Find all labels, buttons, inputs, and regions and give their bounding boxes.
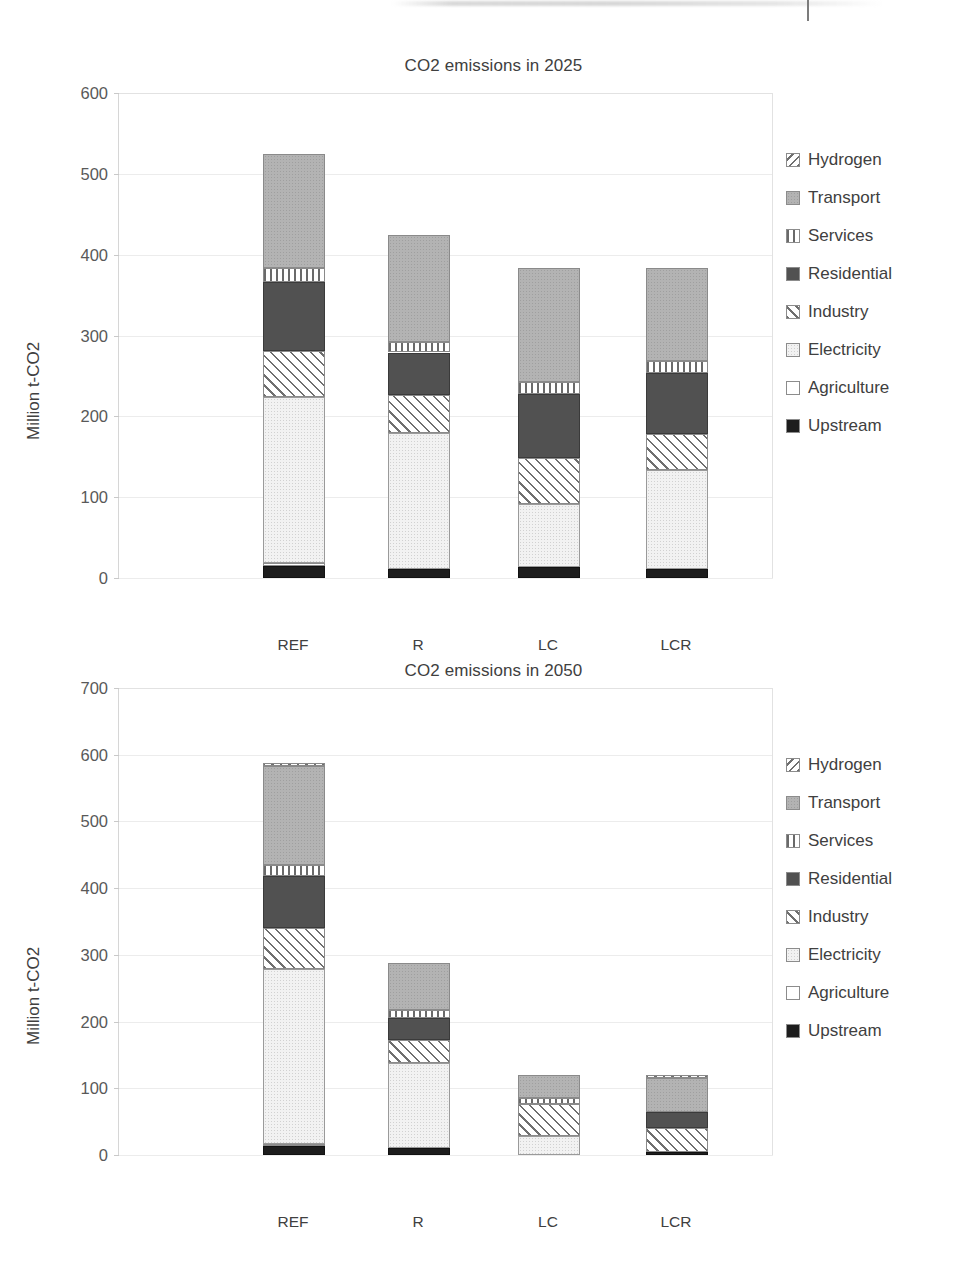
bar-segment-services[interactable]: [518, 382, 580, 394]
y-tick-mark: [114, 174, 119, 175]
legend-item-residential[interactable]: Residential: [786, 264, 892, 284]
gridline: [119, 955, 773, 956]
chart-legend: HydrogenTransportServicesResidentialIndu…: [786, 755, 946, 1055]
bar-segment-electricity[interactable]: [388, 433, 450, 569]
bar-segment-transport[interactable]: [518, 268, 580, 382]
bar-segment-agriculture[interactable]: [263, 563, 325, 566]
legend-item-upstream[interactable]: Upstream: [786, 1021, 882, 1041]
legend-label: Industry: [808, 302, 868, 322]
electricity-swatch-icon: [786, 343, 800, 357]
bar-segment-services[interactable]: [388, 342, 450, 353]
bar-segment-residential[interactable]: [263, 876, 325, 927]
bar-segment-residential[interactable]: [388, 353, 450, 396]
bar-segment-transport[interactable]: [388, 963, 450, 1010]
legend-item-electricity[interactable]: Electricity: [786, 945, 881, 965]
legend-label: Hydrogen: [808, 755, 882, 775]
legend-item-agriculture[interactable]: Agriculture: [786, 378, 889, 398]
bar-segment-upstream[interactable]: [388, 569, 450, 578]
legend-item-industry[interactable]: Industry: [786, 907, 868, 927]
bar-segment-industry[interactable]: [388, 1040, 450, 1063]
bar-segment-services[interactable]: [263, 865, 325, 876]
bar-segment-transport[interactable]: [646, 268, 708, 362]
bar-segment-services[interactable]: [646, 361, 708, 372]
bar-segment-industry[interactable]: [646, 434, 708, 470]
y-tick-mark: [114, 1088, 119, 1089]
bar-ref[interactable]: [263, 763, 325, 1155]
legend-item-services[interactable]: Services: [786, 226, 873, 246]
legend-item-industry[interactable]: Industry: [786, 302, 868, 322]
bar-segment-upstream[interactable]: [646, 569, 708, 578]
bar-segment-electricity[interactable]: [388, 1063, 450, 1148]
bar-segment-services[interactable]: [518, 1098, 580, 1105]
bar-segment-upstream[interactable]: [263, 566, 325, 578]
y-tick-label: 100: [56, 488, 108, 507]
bar-segment-services[interactable]: [263, 268, 325, 282]
bar-segment-industry[interactable]: [263, 351, 325, 397]
bar-segment-services[interactable]: [388, 1010, 450, 1018]
bar-lcr[interactable]: [646, 1075, 708, 1155]
y-tick-mark: [114, 255, 119, 256]
legend-label: Residential: [808, 264, 892, 284]
bar-r[interactable]: [388, 963, 450, 1155]
bar-segment-transport[interactable]: [518, 1075, 580, 1098]
upstream-swatch-icon: [786, 1024, 800, 1038]
y-tick-mark: [114, 1022, 119, 1023]
legend-item-agriculture[interactable]: Agriculture: [786, 983, 889, 1003]
y-tick-mark: [114, 1155, 119, 1156]
bar-segment-transport[interactable]: [388, 235, 450, 342]
bar-segment-electricity[interactable]: [646, 470, 708, 569]
x-tick-label-lcr: LCR: [660, 1213, 691, 1231]
residential-swatch-icon: [786, 872, 800, 886]
y-tick-mark: [114, 888, 119, 889]
bar-segment-industry[interactable]: [388, 395, 450, 433]
legend-label: Upstream: [808, 416, 882, 436]
y-tick-mark: [114, 336, 119, 337]
bar-segment-electricity[interactable]: [518, 504, 580, 567]
chart-legend: HydrogenTransportServicesResidentialIndu…: [786, 150, 946, 450]
bar-segment-upstream[interactable]: [388, 1148, 450, 1155]
bar-ref[interactable]: [263, 154, 325, 578]
legend-item-upstream[interactable]: Upstream: [786, 416, 882, 436]
y-tick-label: 200: [56, 407, 108, 426]
bar-segment-transport[interactable]: [263, 154, 325, 269]
bar-segment-residential[interactable]: [388, 1018, 450, 1040]
bar-lc[interactable]: [518, 268, 580, 578]
legend-label: Electricity: [808, 340, 881, 360]
bar-lc[interactable]: [518, 1075, 580, 1155]
legend-item-transport[interactable]: Transport: [786, 188, 880, 208]
legend-label: Electricity: [808, 945, 881, 965]
bar-segment-residential[interactable]: [518, 394, 580, 459]
bar-segment-industry[interactable]: [518, 458, 580, 503]
legend-label: Transport: [808, 793, 880, 813]
bar-segment-transport[interactable]: [263, 766, 325, 865]
bar-segment-upstream[interactable]: [263, 1146, 325, 1155]
bar-lcr[interactable]: [646, 268, 708, 578]
bar-r[interactable]: [388, 235, 450, 578]
legend-item-hydrogen[interactable]: Hydrogen: [786, 150, 882, 170]
legend-item-residential[interactable]: Residential: [786, 869, 892, 889]
legend-label: Upstream: [808, 1021, 882, 1041]
bar-segment-residential[interactable]: [646, 373, 708, 434]
bar-segment-industry[interactable]: [518, 1104, 580, 1136]
bar-segment-residential[interactable]: [646, 1112, 708, 1129]
legend-item-electricity[interactable]: Electricity: [786, 340, 881, 360]
gridline: [119, 578, 773, 579]
bar-segment-industry[interactable]: [263, 928, 325, 969]
legend-item-services[interactable]: Services: [786, 831, 873, 851]
bar-segment-electricity[interactable]: [263, 969, 325, 1144]
bar-segment-transport[interactable]: [646, 1078, 708, 1111]
bar-segment-upstream[interactable]: [646, 1152, 708, 1155]
y-tick-mark: [114, 497, 119, 498]
bar-segment-hydrogen[interactable]: [263, 763, 325, 766]
bar-segment-residential[interactable]: [263, 282, 325, 351]
bar-segment-electricity[interactable]: [518, 1136, 580, 1155]
legend-item-transport[interactable]: Transport: [786, 793, 880, 813]
y-tick-label: 700: [56, 679, 108, 698]
y-tick-label: 300: [56, 945, 108, 964]
bar-segment-industry[interactable]: [646, 1128, 708, 1151]
legend-item-hydrogen[interactable]: Hydrogen: [786, 755, 882, 775]
bar-segment-electricity[interactable]: [263, 397, 325, 563]
bar-segment-hydrogen[interactable]: [646, 1075, 708, 1078]
y-tick-mark: [114, 821, 119, 822]
bar-segment-upstream[interactable]: [518, 567, 580, 578]
